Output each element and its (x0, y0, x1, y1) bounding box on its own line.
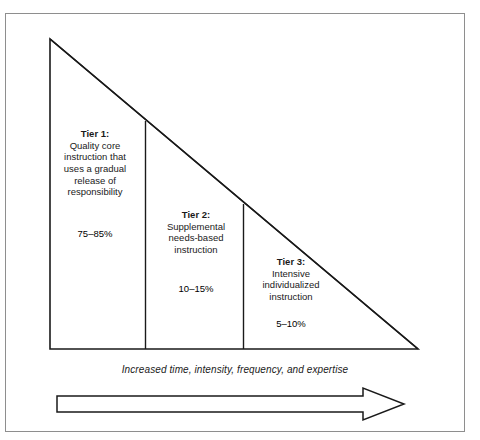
tier-3-label-group: Tier 3: Intensive individualized instruc… (244, 256, 338, 303)
tier-2-description-line-1: Supplemental (150, 221, 242, 233)
tier-2-percent: 10–15% (150, 283, 242, 294)
tier-2-description-line-2: needs-based (150, 232, 242, 244)
tier-2-label-group: Tier 2: Supplemental needs-based instruc… (150, 209, 242, 256)
tier-2-description-line-3: instruction (150, 244, 242, 256)
tier-1-description-line-2: instruction that (46, 151, 144, 163)
tier-1-title: Tier 1: (46, 128, 144, 140)
tier-1-label-group: Tier 1: Quality core instruction that us… (46, 128, 144, 198)
tier-3-description-line-3: instruction (244, 291, 338, 303)
tier-1-description-line-1: Quality core (46, 140, 144, 152)
tier-3-description-line-1: Intensive (244, 268, 338, 280)
arrow-caption: Increased time, intensity, frequency, an… (5, 364, 465, 375)
direction-arrow-icon (57, 388, 404, 420)
figure-root: Tier 1: Quality core instruction that us… (0, 0, 480, 440)
tier-3-description-line-2: individualized (244, 279, 338, 291)
tier-3-percent: 5–10% (244, 318, 338, 329)
tier-1-description-line-5: responsibility (46, 186, 144, 198)
tier-2-title: Tier 2: (150, 209, 242, 221)
tier-3-title: Tier 3: (244, 256, 338, 268)
tier-1-description-line-4: release of (46, 175, 144, 187)
tier-1-percent: 75–85% (46, 228, 144, 239)
tier-1-description-line-3: uses a gradual (46, 163, 144, 175)
